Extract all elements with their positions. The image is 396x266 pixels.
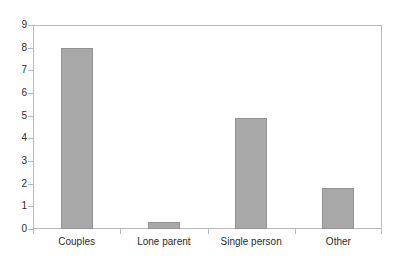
y-axis-tick-label: 4 [0,133,27,143]
y-axis-tick-label: 1 [0,201,27,211]
x-axis-tick-marks [33,229,382,234]
y-axis-tick-label: 0 [0,224,27,234]
x-axis-tick-mark [208,229,209,234]
x-axis-tick-label: Other [295,236,382,248]
y-axis-tick-label: 6 [0,88,27,98]
x-axis-tick-mark [120,229,121,234]
x-axis-tick-mark [295,229,296,234]
y-axis-tick-label: 2 [0,179,27,189]
x-axis-tick-mark [33,229,34,234]
y-axis-tick-label: 5 [0,111,27,121]
y-axis-tick-label: 9 [0,20,27,30]
y-axis-tick-label: 7 [0,65,27,75]
bar [235,118,267,229]
bar [61,48,93,229]
x-axis-tick-label: Lone parent [120,236,207,248]
bar [322,188,354,229]
x-axis-tick-label: Couples [33,236,120,248]
x-axis: CouplesLone parentSingle personOther [33,236,382,252]
y-axis-tick-label: 8 [0,43,27,53]
x-axis-tick-mark [381,229,382,234]
bar-series [33,25,382,229]
x-axis-tick-label: Single person [208,236,295,248]
y-axis-tick-label: 3 [0,156,27,166]
bar-chart: 0123456789 CouplesLone parentSingle pers… [0,0,396,266]
bar [148,222,180,229]
y-axis: 0123456789 [0,25,27,229]
